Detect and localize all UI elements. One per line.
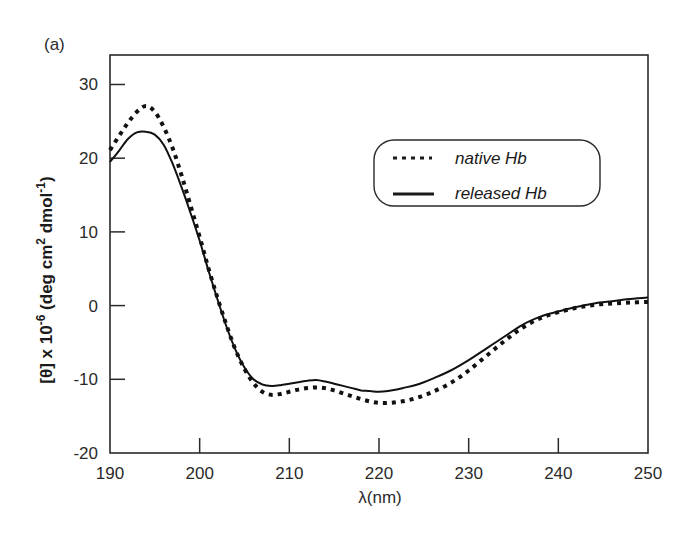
y-axis-label: [θ] x 10-6 (deg cm2 dmol-1): [34, 176, 56, 383]
x-tick-label: 190: [96, 464, 124, 483]
plot-frame: [110, 55, 648, 453]
x-tick-label: 210: [275, 464, 303, 483]
legend-label-released: released Hb: [455, 184, 547, 203]
cd-spectrum-chart: (a) -20-100102030 190200210220230240250 …: [0, 0, 693, 535]
y-tick-label: -10: [73, 370, 98, 389]
x-tick-label: 220: [365, 464, 393, 483]
x-axis-label: λ(nm): [358, 488, 401, 507]
x-tick-label: 250: [634, 464, 662, 483]
x-tick-label: 200: [185, 464, 213, 483]
x-axis-ticks: 190200210220230240250: [96, 438, 662, 483]
y-tick-label: 0: [89, 297, 98, 316]
x-tick-label: 240: [544, 464, 572, 483]
legend-label-native: native Hb: [455, 149, 527, 168]
panel-label: (a): [44, 35, 65, 54]
legend: native Hb released Hb: [374, 140, 600, 206]
plot-area: [110, 55, 648, 453]
y-tick-label: 20: [79, 149, 98, 168]
x-tick-label: 230: [454, 464, 482, 483]
y-tick-label: 10: [79, 223, 98, 242]
y-tick-label: 30: [79, 75, 98, 94]
y-tick-label: -20: [73, 444, 98, 463]
y-axis-ticks: -20-100102030: [73, 75, 125, 463]
